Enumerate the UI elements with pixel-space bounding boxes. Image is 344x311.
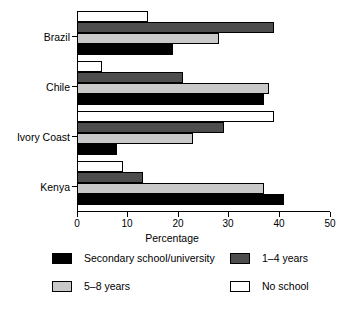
bar-secondary-school <box>77 44 173 55</box>
bar-secondary-school <box>77 94 264 105</box>
bar-1-4-years <box>77 122 224 133</box>
bar-no-school <box>77 161 123 172</box>
x-axis-tick <box>279 212 280 217</box>
x-axis-tick-label: 40 <box>264 218 294 230</box>
bar-1-4-years <box>77 172 143 183</box>
legend-swatch-icon <box>52 281 72 292</box>
bar-5-8-years <box>77 183 264 194</box>
y-axis-label-chile: Chile <box>46 81 70 93</box>
x-axis-tick-label: 0 <box>62 218 92 230</box>
legend-item-5-8-years: 5–8 years <box>52 280 130 292</box>
bar-5-8-years <box>77 33 219 44</box>
x-axis-tick-label: 10 <box>112 218 142 230</box>
y-axis-label-kenya: Kenya <box>40 181 70 193</box>
legend-item-label: 5–8 years <box>84 280 130 292</box>
bar-5-8-years <box>77 133 193 144</box>
plot-area: Brazil Chile Ivory Coast Kenya 0 10 20 3… <box>0 0 344 230</box>
chart-legend: Secondary school/university 1–4 years 5–… <box>0 252 344 310</box>
bar-secondary-school <box>77 194 284 205</box>
bar-no-school <box>77 61 102 72</box>
legend-swatch-icon <box>230 253 250 264</box>
legend-swatch-icon <box>230 281 250 292</box>
x-axis-tick <box>228 212 229 217</box>
x-axis-tick <box>330 212 331 217</box>
bar-secondary-school <box>77 144 117 155</box>
legend-item-label: Secondary school/university <box>84 252 215 264</box>
x-axis-tick <box>127 212 128 217</box>
bar-5-8-years <box>77 83 269 94</box>
x-axis-title: Percentage <box>0 232 344 244</box>
legend-item-label: 1–4 years <box>262 252 308 264</box>
x-axis-tick-label: 30 <box>213 218 243 230</box>
legend-item-1-4-years: 1–4 years <box>230 252 308 264</box>
bar-chart: Brazil Chile Ivory Coast Kenya 0 10 20 3… <box>0 0 344 311</box>
bar-1-4-years <box>77 72 183 83</box>
x-axis-tick-label: 20 <box>163 218 193 230</box>
legend-item-no-school: No school <box>230 280 309 292</box>
legend-item-secondary-school: Secondary school/university <box>52 252 215 264</box>
x-axis-tick <box>178 212 179 217</box>
bar-no-school <box>77 11 148 22</box>
x-axis-tick <box>77 212 78 217</box>
bar-no-school <box>77 111 274 122</box>
legend-swatch-icon <box>52 253 72 264</box>
x-axis-line <box>77 211 330 212</box>
bar-1-4-years <box>77 22 274 33</box>
y-axis-label-ivory-coast: Ivory Coast <box>17 131 70 143</box>
x-axis-tick-label: 50 <box>315 218 344 230</box>
legend-item-label: No school <box>262 280 309 292</box>
y-axis-label-brazil: Brazil <box>44 31 70 43</box>
